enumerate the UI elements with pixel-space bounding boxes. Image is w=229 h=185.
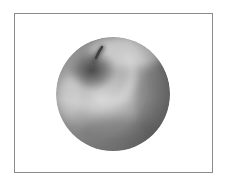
apple-body <box>56 36 170 155</box>
figure-canvas: Grayscale shaded apple with stem <box>0 0 229 185</box>
apple-illustration <box>0 0 229 185</box>
